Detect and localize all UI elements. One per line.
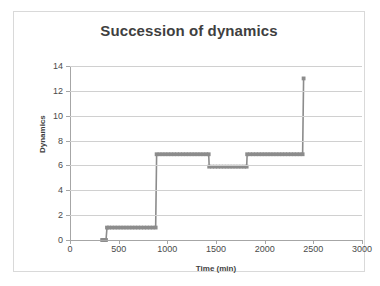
y-tick-label: 0 [58, 235, 63, 245]
y-tick-mark [66, 66, 70, 67]
gridline-y [70, 165, 362, 166]
gridline-y [70, 141, 362, 142]
y-tick-label: 8 [58, 136, 63, 146]
x-tick-label: 3000 [352, 244, 372, 254]
y-tick-label: 2 [58, 210, 63, 220]
y-tick-mark [66, 165, 70, 166]
y-tick-mark [66, 91, 70, 92]
data-series-line [70, 66, 362, 240]
x-tick-label: 0 [67, 244, 72, 254]
y-tick-label: 10 [53, 111, 63, 121]
x-tick-label: 1000 [157, 244, 177, 254]
y-tick-mark [66, 215, 70, 216]
chart-title: Succession of dynamics [14, 22, 364, 39]
y-tick-mark [66, 116, 70, 117]
gridline-y [70, 116, 362, 117]
x-tick-label: 2500 [303, 244, 323, 254]
y-tick-mark [66, 190, 70, 191]
x-tick-label: 2000 [255, 244, 275, 254]
gridline-y [70, 91, 362, 92]
y-tick-mark [66, 141, 70, 142]
x-axis-title: Time (min) [70, 264, 362, 273]
y-tick-label: 6 [58, 160, 63, 170]
x-tick-label: 500 [111, 244, 126, 254]
y-tick-label: 12 [53, 86, 63, 96]
chart-frame: Succession of dynamics Dynamics 02468101… [13, 11, 365, 272]
gridline-y [70, 215, 362, 216]
x-tick-label: 1500 [206, 244, 226, 254]
gridline-y [70, 66, 362, 67]
y-axis-title: Dynamics [38, 115, 47, 153]
plot-area: 02468101214050010001500200025003000 [70, 66, 362, 240]
gridline-y [70, 190, 362, 191]
y-tick-label: 4 [58, 185, 63, 195]
y-tick-label: 14 [53, 61, 63, 71]
